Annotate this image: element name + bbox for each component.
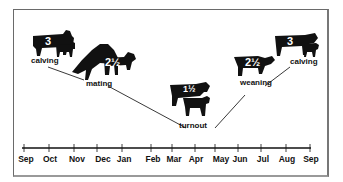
month-label: May: [213, 155, 230, 164]
calving-cow-icon: [33, 30, 75, 57]
calving-score-right: 3: [287, 36, 293, 47]
month-label: Nov: [69, 155, 85, 164]
weaning-label: weaning: [240, 79, 272, 87]
mating-cattle-icon: [72, 44, 136, 80]
calving-label-right: calving: [290, 58, 318, 66]
connector-lines: [48, 67, 290, 128]
mating-label: mating: [86, 80, 112, 88]
calving-cow-right-icon: [275, 33, 319, 57]
month-label: Apr: [189, 155, 204, 164]
mating-score: 2½: [105, 57, 120, 68]
month-label: Sep: [18, 155, 34, 164]
month-label: Mar: [166, 155, 181, 164]
turnout-score: 1½: [183, 85, 196, 94]
weaning-score: 2½: [245, 57, 260, 68]
calving-label-left: calving: [31, 57, 59, 65]
month-label: Dec: [95, 155, 111, 164]
month-label: Jul: [257, 155, 269, 164]
month-label: Jun: [232, 155, 247, 164]
turnout-label: turnout: [179, 122, 207, 130]
month-label: Oct: [43, 155, 57, 164]
month-label: Jan: [117, 155, 132, 164]
calving-score-left: 3: [45, 36, 51, 47]
month-label: Sep: [303, 155, 319, 164]
month-label: Feb: [145, 155, 160, 164]
month-label: Aug: [279, 155, 296, 164]
